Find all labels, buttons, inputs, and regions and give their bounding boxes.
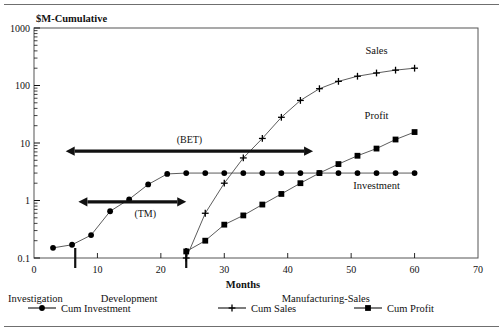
x-axis-tick-label: 50	[346, 264, 356, 275]
y-axis-tick-label: 1000	[10, 23, 30, 34]
data-point-marker	[355, 170, 361, 176]
data-point-marker	[336, 170, 342, 176]
data-point-marker	[412, 129, 418, 135]
x-axis-tick-label: 20	[156, 264, 166, 275]
cumulative-cash-flow-chart: 0.11101001000010203040506070$M-Cumulativ…	[0, 0, 503, 336]
annotation-arrow-head-right-tm	[177, 197, 186, 206]
legend-item-2: Cum Profit	[387, 303, 434, 314]
data-point-marker	[278, 191, 284, 197]
data-point-marker	[164, 171, 170, 177]
annotation-arrow-head-left-bet	[66, 147, 75, 156]
y-axis-tick-label: 0.1	[18, 253, 31, 264]
x-axis-tick-label: 10	[92, 264, 102, 275]
data-point-marker	[240, 170, 246, 176]
data-point-marker	[374, 170, 380, 176]
y-axis-tick-label: 10	[20, 138, 30, 149]
data-point-marker	[393, 170, 399, 176]
x-axis-tick-label: 30	[219, 264, 229, 275]
data-point-marker	[298, 180, 304, 186]
x-axis-title: Months	[226, 279, 260, 290]
legend-item-0: Cum Investment	[61, 303, 131, 314]
x-axis-tick-label: 60	[410, 264, 420, 275]
series-label-profit: Profit	[365, 110, 389, 121]
legend-item-1: Cum Sales	[251, 303, 296, 314]
data-point-marker	[221, 222, 227, 228]
data-point-marker	[183, 170, 189, 176]
annotation-arrow-head-right-bet	[304, 147, 313, 156]
data-point-marker	[298, 170, 304, 176]
data-point-marker	[50, 245, 56, 251]
data-point-marker	[259, 170, 265, 176]
series-label-sales: Sales	[365, 45, 387, 56]
data-point-marker	[393, 137, 399, 143]
phase-label-0: Investigation	[8, 293, 64, 304]
x-axis-tick-label: 70	[473, 264, 483, 275]
y-axis-tick-label: 100	[15, 80, 30, 91]
data-point-marker	[336, 161, 342, 167]
data-point-marker	[183, 249, 189, 255]
data-point-marker	[365, 305, 371, 311]
x-axis-tick-label: 0	[32, 264, 37, 275]
y-axis-title: $M-Cumulative	[36, 13, 107, 24]
data-point-marker	[88, 232, 94, 238]
data-point-marker	[202, 170, 208, 176]
data-point-marker	[202, 238, 208, 244]
series-line-1	[186, 68, 414, 258]
chart-canvas: 0.11101001000010203040506070$M-Cumulativ…	[0, 0, 503, 336]
data-point-marker	[259, 202, 265, 208]
y-axis-tick-label: 1	[25, 195, 30, 206]
data-point-marker	[107, 208, 113, 214]
annotation-label-tm: (TM)	[134, 208, 156, 220]
data-point-marker	[317, 170, 323, 176]
annotation-label-bet: (BET)	[177, 134, 203, 146]
data-point-marker	[39, 305, 45, 311]
data-point-marker	[355, 153, 361, 159]
data-point-marker	[240, 213, 246, 219]
data-point-marker	[278, 170, 284, 176]
data-point-marker	[374, 146, 380, 152]
data-point-marker	[69, 242, 75, 248]
series-label-investment: Investment	[353, 180, 400, 191]
data-point-marker	[221, 170, 227, 176]
data-point-marker	[145, 182, 151, 188]
data-point-marker	[412, 170, 418, 176]
x-axis-tick-label: 40	[283, 264, 293, 275]
annotation-arrow-head-left-tm	[78, 197, 87, 206]
